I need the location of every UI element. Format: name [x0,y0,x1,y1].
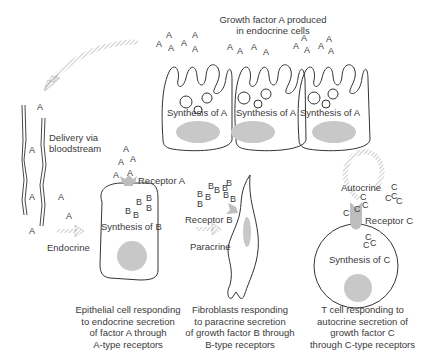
svg-text:B: B [214,185,220,195]
synthesis-c-label: Synthesis of C [329,254,390,265]
caption-line: to endocrine secretion [68,316,188,328]
svg-text:A: A [237,46,243,56]
svg-text:B: B [223,190,229,200]
epithelial-caption: Epithelial cell responding to endocrine … [68,304,188,350]
svg-text:A: A [181,38,187,48]
signaling-diagram: AAA AAA AAAA AAA AAA AAA AAA AAA AA BBB … [0,0,430,355]
svg-text:A: A [66,211,72,221]
svg-text:B: B [205,192,211,202]
svg-text:A: A [263,47,269,57]
factor-b-molecules-epithelial: BBB BB [125,193,152,220]
endocrine-arrow-icon [57,225,84,237]
svg-text:A: A [293,41,299,51]
endocrine-label: Endocrine [47,242,90,253]
svg-text:A: A [328,46,334,56]
svg-text:A: A [304,45,310,55]
bloodstream-label: Delivery via bloodstream [49,132,109,154]
svg-text:C: C [343,208,350,218]
bloodstream-a-molecules: AAA AAA [29,102,72,236]
caption-line: Fibroblasts responding [180,304,300,316]
svg-text:C: C [362,200,369,210]
svg-text:A: A [251,42,257,52]
receptor-b-icon [226,203,238,214]
svg-text:C: C [370,238,377,248]
svg-text:B: B [125,206,131,216]
synthesis-b-label: Synthesis of B [101,221,162,232]
svg-text:A: A [29,226,35,236]
endocrine-cell-3-label: Synthesis of A [300,107,360,118]
svg-text:A: A [118,157,124,167]
caption-line: of factor A through [68,327,188,339]
svg-text:A: A [127,168,133,178]
endocrine-cell-2-label: Synthesis of A [236,107,296,118]
receptor-a-label: Receptor A [138,175,185,186]
t-cell-caption: T cell responding to autocrine secretion… [305,304,420,350]
svg-text:A: A [318,41,324,51]
receptor-c-label: Receptor C [365,215,413,226]
svg-text:B: B [136,197,142,207]
svg-text:C: C [396,196,403,206]
caption-line: of growth factor B through [180,327,300,339]
svg-text:B: B [230,194,236,204]
svg-text:A: A [29,192,35,202]
svg-text:A: A [113,170,119,180]
caption-line: T cell responding to [305,304,420,316]
svg-text:B: B [146,193,152,203]
svg-text:B: B [197,199,203,209]
endocrine-cell-1-label: Synthesis of A [167,107,227,118]
svg-text:A: A [58,192,64,202]
caption-line: growth factor C [305,327,420,339]
svg-text:A: A [227,42,233,52]
fibroblast-caption: Fibroblasts responding to paracrine secr… [180,304,300,350]
svg-text:B: B [146,203,152,213]
autocrine-label: Autocrine [341,182,381,193]
paracrine-label: Paracrine [190,241,231,252]
svg-text:A: A [37,102,43,112]
svg-text:A: A [192,44,198,54]
caption-line: autocrine secretion of [305,316,420,328]
caption-line: through C-type receptors [305,339,420,351]
svg-text:B: B [197,189,203,199]
svg-text:B: B [133,210,139,220]
svg-text:A: A [156,39,162,49]
svg-text:A: A [168,43,174,53]
svg-text:A: A [166,30,172,40]
caption-line: A-type receptors [68,339,188,351]
caption-line: Epithelial cell responding [68,304,188,316]
caption-line: B-type receptors [180,339,300,351]
svg-text:A: A [130,154,136,164]
diagram-title: Growth factor A produced in endocrine ce… [215,14,331,36]
receptor-a-molecules: AAA AA [113,144,136,180]
receptor-b-label: Receptor B [185,214,233,225]
svg-text:A: A [29,145,35,155]
caption-line: to paracrine secretion [180,316,300,328]
svg-text:A: A [192,30,198,40]
svg-text:B: B [226,178,232,188]
svg-text:C: C [354,204,361,214]
delivery-arrow-icon [44,42,138,91]
svg-text:C: C [363,240,370,250]
blood-vessel [22,105,46,226]
svg-text:A: A [123,144,129,154]
